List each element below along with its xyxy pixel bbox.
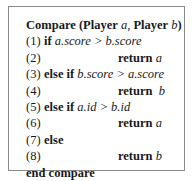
code-line: (5)else if a.id > b.id (26, 99, 182, 115)
line-number: (4) (26, 83, 44, 99)
keyword: else if (44, 100, 74, 114)
line-number: (1) (26, 33, 44, 49)
line-number: (2) (26, 50, 44, 66)
keyword: if (44, 34, 52, 48)
function-name: Compare (26, 18, 76, 32)
expression: b.score > a.score (77, 67, 164, 81)
keyword: return (118, 116, 153, 130)
keyword: else (44, 133, 63, 147)
param-type: Player (83, 18, 118, 32)
line-number: (5) (26, 99, 44, 115)
code-line: (3)else if b.score > a.score (26, 66, 182, 82)
end-keyword: end compare (26, 166, 95, 180)
param-type: Player (133, 18, 168, 32)
pseudocode-box: Compare (Player a, Player b) (1)if a.sco… (8, 6, 185, 171)
keyword: return (118, 51, 153, 65)
expression: a.id > b.id (77, 100, 130, 114)
code-line: (8)return b (26, 148, 182, 164)
function-header: Compare (Player a, Player b) (26, 17, 182, 33)
pseudocode: Compare (Player a, Player b) (1)if a.sco… (26, 17, 182, 181)
expression: b (156, 149, 162, 163)
line-number: (8) (26, 148, 44, 164)
keyword: return (118, 84, 153, 98)
line-number: (3) (26, 66, 44, 82)
function-footer: end compare (26, 165, 182, 181)
code-line: (2)return a (26, 50, 182, 66)
keyword: else if (44, 67, 74, 81)
code-line: (4)return b (26, 83, 182, 99)
expression: a.score > b.score (55, 34, 142, 48)
line-number: (7) (26, 132, 44, 148)
expression: b (159, 84, 165, 98)
paren-open: ( (76, 18, 83, 32)
code-line: (6)return a (26, 115, 182, 131)
line-number: (6) (26, 115, 44, 131)
paren-close: ) (178, 18, 182, 32)
code-line: (1)if a.score > b.score (26, 33, 182, 49)
expression: a (156, 116, 162, 130)
expression: a (156, 51, 162, 65)
code-line: (7)else (26, 132, 182, 148)
keyword: return (118, 149, 153, 163)
